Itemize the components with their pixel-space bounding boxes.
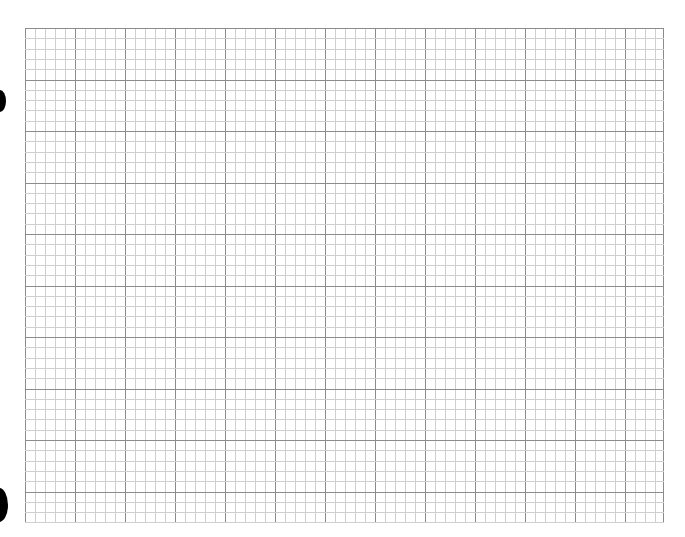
minor-gridline-horizontal [25, 141, 664, 142]
major-gridline-horizontal [25, 80, 664, 81]
major-gridline-horizontal [25, 183, 664, 184]
minor-gridline-horizontal [25, 275, 664, 276]
minor-gridline-horizontal [25, 193, 664, 194]
punch-hole [0, 488, 8, 522]
major-gridline-horizontal [25, 234, 664, 235]
major-gridline-horizontal [25, 286, 664, 287]
minor-gridline-horizontal [25, 347, 664, 348]
minor-gridline-horizontal [25, 265, 664, 266]
major-gridline-horizontal [25, 337, 664, 338]
major-gridline-horizontal [25, 389, 664, 390]
minor-gridline-horizontal [25, 203, 664, 204]
minor-gridline-horizontal [25, 213, 664, 214]
minor-gridline-horizontal [25, 244, 664, 245]
minor-gridline-horizontal [25, 152, 664, 153]
graph-paper-grid [25, 28, 664, 522]
minor-gridline-horizontal [25, 512, 664, 513]
minor-gridline-horizontal [25, 409, 664, 410]
minor-gridline-horizontal [25, 522, 664, 523]
minor-gridline-horizontal [25, 172, 664, 173]
minor-gridline-horizontal [25, 110, 664, 111]
minor-gridline-horizontal [25, 306, 664, 307]
minor-gridline-horizontal [25, 358, 664, 359]
minor-gridline-horizontal [25, 430, 664, 431]
minor-gridline-horizontal [25, 471, 664, 472]
minor-gridline-horizontal [25, 69, 664, 70]
minor-gridline-horizontal [25, 399, 664, 400]
minor-gridline-horizontal [25, 378, 664, 379]
minor-gridline-horizontal [25, 327, 664, 328]
minor-gridline-horizontal [25, 481, 664, 482]
minor-gridline-horizontal [25, 59, 664, 60]
minor-gridline-horizontal [25, 419, 664, 420]
minor-gridline-horizontal [25, 316, 664, 317]
major-gridline-horizontal [25, 440, 664, 441]
minor-gridline-horizontal [25, 368, 664, 369]
minor-gridline-horizontal [25, 90, 664, 91]
major-gridline-horizontal [25, 492, 664, 493]
minor-gridline-horizontal [25, 450, 664, 451]
minor-gridline-horizontal [25, 502, 664, 503]
minor-gridline-horizontal [25, 121, 664, 122]
minor-gridline-horizontal [25, 296, 664, 297]
minor-gridline-horizontal [25, 255, 664, 256]
major-gridline-horizontal [25, 28, 664, 29]
minor-gridline-horizontal [25, 224, 664, 225]
minor-gridline-horizontal [25, 461, 664, 462]
punch-hole [0, 90, 6, 112]
minor-gridline-horizontal [25, 100, 664, 101]
minor-gridline-horizontal [25, 38, 664, 39]
minor-gridline-horizontal [25, 49, 664, 50]
minor-gridline-horizontal [25, 162, 664, 163]
major-gridline-horizontal [25, 131, 664, 132]
